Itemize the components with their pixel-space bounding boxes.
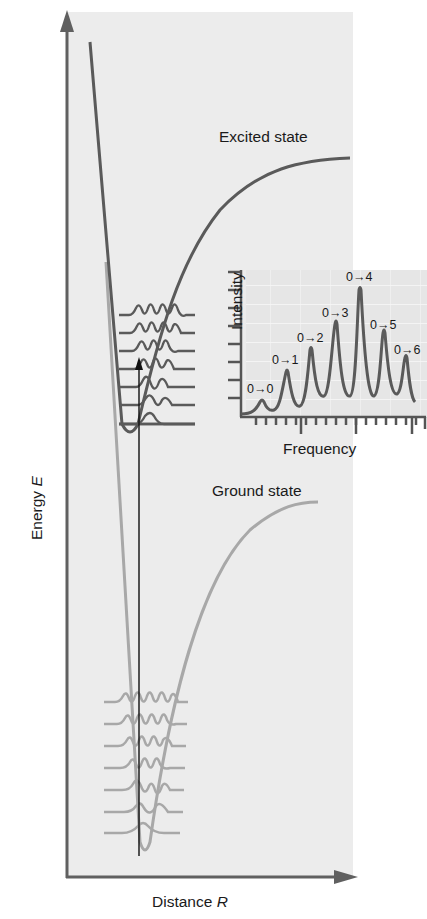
inset-y-axis-label: Intensity	[228, 272, 246, 330]
x-axis-symbol: R	[217, 893, 228, 910]
peak-label-0-6: 0→6	[394, 343, 420, 357]
peak-label-0-4: 0→4	[346, 270, 372, 284]
x-axis-label: Distance R	[152, 893, 228, 911]
ground-state-label: Ground state	[212, 482, 302, 500]
peak-label-0-2: 0→2	[297, 331, 323, 345]
y-axis-symbol: E	[28, 476, 45, 486]
y-axis-label: Energy E	[28, 476, 46, 540]
peak-label-0-1: 0→1	[272, 353, 298, 367]
y-axis-label-text: Energy	[28, 491, 45, 540]
inset-x-axis-label: Frequency	[283, 440, 356, 458]
x-axis-label-text: Distance	[152, 893, 212, 910]
peak-label-0-3: 0→3	[322, 306, 348, 320]
diagram-canvas	[0, 0, 427, 919]
excited-state-label: Excited state	[219, 128, 308, 146]
franck-condon-diagram: Excited state Ground state Frequency Int…	[0, 0, 427, 919]
peak-label-0-0: 0→0	[247, 382, 273, 396]
peak-label-0-5: 0→5	[370, 318, 396, 332]
